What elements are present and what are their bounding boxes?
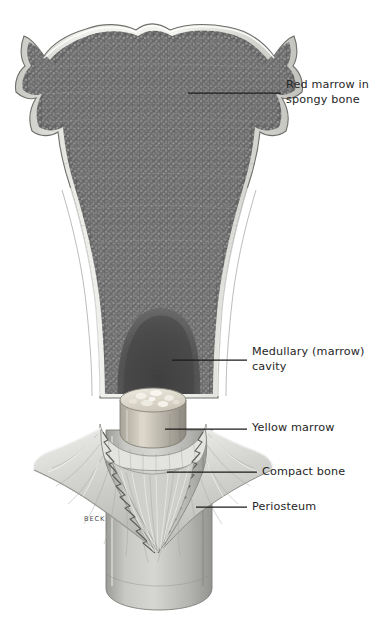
- label-medullary-cavity: Medullary (marrow) cavity: [252, 345, 365, 374]
- yellow-marrow-plug: [120, 388, 186, 448]
- label-red-marrow: Red marrow in spongy bone: [286, 78, 369, 107]
- bone-anatomy-figure: Red marrow in spongy bone Medullary (mar…: [0, 0, 379, 624]
- label-yellow-marrow: Yellow marrow: [252, 421, 334, 436]
- artist-signature: BECK: [84, 515, 105, 523]
- label-compact-bone: Compact bone: [262, 465, 345, 480]
- label-periosteum: Periosteum: [252, 500, 316, 515]
